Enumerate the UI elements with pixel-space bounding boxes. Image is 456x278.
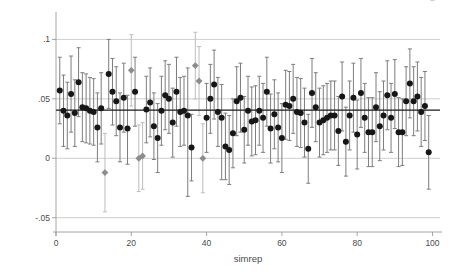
data-point-89 bbox=[388, 115, 394, 121]
x-tick-label-5: 100 bbox=[425, 238, 439, 248]
data-point-63 bbox=[290, 96, 296, 102]
data-point-20 bbox=[128, 67, 135, 74]
data-point-69 bbox=[313, 104, 319, 110]
coefficient-plot: -.050.05.1020406080100simrep bbox=[0, 0, 456, 278]
data-point-12 bbox=[98, 105, 104, 111]
data-point-96 bbox=[414, 93, 420, 99]
data-point-80 bbox=[354, 132, 360, 138]
y-tick-label-3: .1 bbox=[43, 34, 50, 44]
x-tick-label-2: 40 bbox=[202, 238, 212, 248]
data-point-26 bbox=[151, 123, 157, 129]
data-point-90 bbox=[392, 91, 398, 97]
data-point-19 bbox=[125, 126, 131, 132]
data-point-54 bbox=[256, 108, 262, 114]
data-point-40 bbox=[204, 115, 210, 121]
figure-container: -.050.05.1020406080100simrep bbox=[0, 0, 456, 278]
x-axis-title: simrep bbox=[234, 253, 263, 264]
data-point-10 bbox=[91, 109, 97, 115]
y-tick-label-2: .05 bbox=[38, 94, 50, 104]
data-point-16 bbox=[113, 98, 119, 104]
data-point-27 bbox=[155, 135, 161, 141]
data-point-37 bbox=[192, 62, 199, 69]
data-point-28 bbox=[158, 108, 164, 114]
data-point-57 bbox=[268, 126, 274, 132]
data-point-56 bbox=[264, 89, 270, 95]
y-tick-label-1: 0 bbox=[45, 153, 50, 163]
data-point-44 bbox=[219, 115, 225, 121]
data-point-92 bbox=[399, 129, 405, 135]
data-point-62 bbox=[286, 103, 292, 109]
data-point-79 bbox=[350, 95, 356, 101]
data-point-15 bbox=[109, 89, 115, 95]
data-point-82 bbox=[362, 115, 368, 121]
data-point-49 bbox=[237, 95, 243, 101]
data-point-99 bbox=[426, 149, 432, 155]
data-point-31 bbox=[170, 120, 176, 126]
data-point-74 bbox=[332, 112, 338, 118]
data-point-50 bbox=[241, 127, 247, 133]
data-point-1 bbox=[57, 88, 63, 94]
data-point-68 bbox=[309, 90, 315, 96]
data-point-76 bbox=[339, 93, 345, 99]
data-point-34 bbox=[181, 108, 187, 114]
data-point-25 bbox=[147, 99, 153, 105]
data-point-38 bbox=[196, 78, 203, 85]
data-point-65 bbox=[298, 110, 304, 116]
data-point-35 bbox=[185, 112, 191, 118]
data-point-95 bbox=[411, 98, 417, 104]
x-tick-label-4: 80 bbox=[352, 238, 362, 248]
data-point-75 bbox=[335, 128, 341, 134]
data-point-66 bbox=[301, 120, 307, 126]
y-tick-label-0: -.05 bbox=[35, 213, 50, 223]
data-point-30 bbox=[166, 96, 172, 102]
data-point-58 bbox=[271, 111, 277, 117]
data-point-55 bbox=[260, 115, 266, 121]
data-point-42 bbox=[211, 82, 217, 88]
data-point-24 bbox=[143, 107, 149, 113]
data-point-85 bbox=[373, 104, 379, 110]
data-point-84 bbox=[369, 129, 375, 135]
data-point-43 bbox=[215, 109, 221, 115]
data-point-3 bbox=[64, 112, 70, 118]
data-point-94 bbox=[407, 80, 413, 86]
data-point-98 bbox=[422, 103, 428, 109]
data-point-32 bbox=[173, 89, 179, 95]
data-point-18 bbox=[121, 95, 127, 101]
data-point-6 bbox=[76, 79, 82, 85]
data-point-17 bbox=[117, 124, 123, 130]
data-point-97 bbox=[418, 109, 424, 115]
data-point-81 bbox=[358, 90, 364, 96]
data-point-60 bbox=[279, 135, 285, 141]
data-point-77 bbox=[343, 139, 349, 145]
data-point-53 bbox=[253, 117, 259, 123]
data-point-13 bbox=[102, 169, 109, 176]
data-point-5 bbox=[72, 110, 78, 116]
data-point-4 bbox=[68, 91, 74, 97]
data-point-21 bbox=[132, 89, 138, 95]
data-point-11 bbox=[94, 124, 100, 130]
data-point-41 bbox=[207, 96, 213, 102]
data-point-2 bbox=[61, 108, 67, 114]
data-point-78 bbox=[347, 112, 353, 118]
data-point-88 bbox=[384, 92, 390, 98]
data-point-46 bbox=[226, 147, 232, 153]
data-point-59 bbox=[275, 124, 281, 130]
data-point-87 bbox=[381, 112, 387, 118]
data-point-14 bbox=[106, 71, 112, 77]
data-point-51 bbox=[245, 108, 251, 114]
data-point-39 bbox=[199, 155, 206, 162]
data-point-67 bbox=[305, 146, 311, 152]
data-point-36 bbox=[189, 145, 195, 151]
x-tick-label-3: 60 bbox=[277, 238, 287, 248]
data-point-47 bbox=[230, 130, 236, 136]
data-point-86 bbox=[377, 123, 383, 129]
x-tick-label-0: 0 bbox=[54, 238, 59, 248]
data-point-93 bbox=[403, 98, 409, 104]
x-tick-label-1: 20 bbox=[127, 238, 137, 248]
